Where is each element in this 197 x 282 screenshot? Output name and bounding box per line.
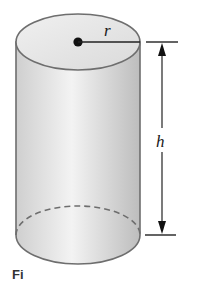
- radius-label: r: [104, 21, 111, 40]
- cylinder-body: [16, 42, 140, 264]
- arrowhead-down-icon: [158, 221, 166, 234]
- height-label: h: [156, 132, 165, 151]
- figure-caption: Fi: [12, 268, 24, 281]
- arrowhead-up-icon: [158, 43, 166, 56]
